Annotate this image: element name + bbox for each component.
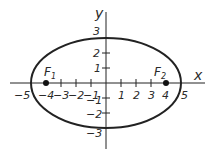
x-tick-label: 3 xyxy=(148,89,155,102)
focus-label-f2: F2 xyxy=(154,65,166,81)
y-axis-label: y xyxy=(94,5,104,21)
focus-point-f1 xyxy=(43,80,49,86)
y-tick-label: −3 xyxy=(86,127,102,140)
x-tick-label: −2 xyxy=(68,89,84,102)
y-tick-label: 3 xyxy=(93,25,100,38)
x-tick-label: 1 xyxy=(118,89,125,102)
x-tick-label: 4 xyxy=(162,89,169,102)
x-tick-label: −4 xyxy=(38,89,54,102)
ellipse-diagram: y x F1 F2 −5 −4 −3 −2 −1 1 2 3 4 5 3 2 1… xyxy=(0,0,214,155)
y-tick-label: 2 xyxy=(93,47,100,60)
y-tick-label: −1 xyxy=(86,94,102,107)
x-tick-label: −3 xyxy=(53,89,69,102)
x-tick-label: 2 xyxy=(133,89,140,102)
x-axis-label: x xyxy=(193,67,203,83)
focus-label-f1: F1 xyxy=(44,65,56,81)
x-tick-label: −5 xyxy=(14,89,30,102)
x-tick-label: 5 xyxy=(181,89,188,102)
y-tick-label: −2 xyxy=(86,108,102,121)
y-tick-label: 1 xyxy=(94,62,101,75)
